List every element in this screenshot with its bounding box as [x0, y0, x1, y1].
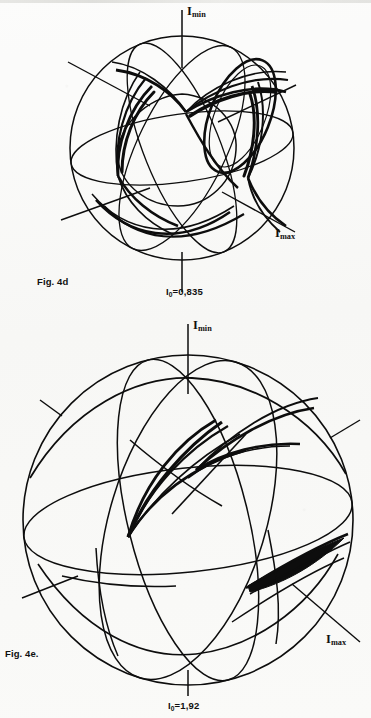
axis-label-imin-4d: Imin — [187, 4, 206, 19]
axis-label-imin-4e: Imin — [193, 318, 212, 333]
figure-4d-drawing — [0, 0, 371, 300]
energy-label-4e: I0=1,92 — [168, 700, 200, 712]
axis-label-imax-4d: Imax — [275, 226, 295, 241]
axis-lines-4d — [61, 10, 296, 292]
figure-caption-4e: Fig. 4e. — [5, 648, 39, 659]
sphere-outline-4e — [23, 355, 353, 685]
figure-4e-drawing — [0, 292, 371, 718]
figure-4e: Imin Imax Fig. 4e. I0=1,92 — [0, 292, 371, 718]
figure-4d: Imin Imax Fig. 4d I0=0,835 — [0, 0, 371, 300]
axis-lines-4e — [22, 324, 360, 696]
axis-label-imax-4e: Imax — [326, 632, 346, 647]
figure-caption-4d: Fig. 4d — [37, 276, 68, 287]
separatrix-fan-4e — [128, 420, 246, 537]
right-limb-caustic-4e — [246, 534, 350, 594]
